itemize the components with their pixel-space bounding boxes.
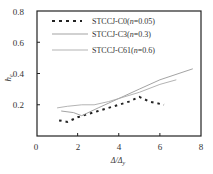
y-tick-label: 0.6 [13, 38, 25, 48]
legend: STCCJ-C0(n=0.05) STCCJ-C3(n=0.3) STCCJ-C… [52, 17, 155, 55]
series-line-1 [61, 69, 193, 116]
x-axis-label: Δ/Δy [110, 156, 126, 166]
x-tick-label: 8 [199, 142, 204, 152]
legend-label-c0: STCCJ-C0(n=0.05) [92, 17, 155, 26]
x-tick-label: 4 [117, 142, 122, 152]
y-tick-label: 0.2 [13, 100, 24, 110]
legend-label-c61: STCCJ-C61(n=0.6) [92, 46, 155, 55]
y-axis-label: he [3, 74, 14, 82]
y-tick-label: 0.8 [13, 7, 25, 17]
x-tick-label: 0 [34, 142, 39, 152]
y-tick-label: 0.4 [13, 69, 25, 79]
x-tick-label: 2 [76, 142, 81, 152]
axis-ticks [37, 42, 160, 136]
chart: 0.8 0.6 0.4 0.2 0 2 4 6 8 Δ/Δy he STCCJ-… [0, 0, 213, 174]
legend-label-c3: STCCJ-C3(n=0.3) [92, 30, 151, 39]
series-layer [57, 69, 193, 122]
x-tick-label: 6 [158, 142, 163, 152]
